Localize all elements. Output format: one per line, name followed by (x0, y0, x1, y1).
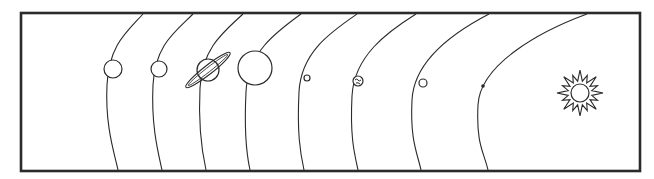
planet-mars-icon (304, 75, 310, 81)
orbit-path-jupiter (245, 14, 301, 170)
orbit-path-uranus (153, 14, 193, 170)
diagram-canvas (0, 0, 654, 179)
orbit-path-saturn (199, 14, 243, 170)
planet-uranus-icon (151, 61, 167, 77)
orbit-jupiter (238, 14, 301, 170)
planet-earth-icon (353, 76, 363, 86)
orbit-venus (412, 14, 489, 170)
sun-icon (557, 70, 603, 116)
planet-mercury-icon (481, 84, 485, 88)
orbit-earth (351, 14, 416, 170)
orbit-path-mars (298, 14, 357, 170)
orbit-path-earth (351, 14, 416, 170)
diagram-frame (21, 13, 640, 171)
planet-jupiter-icon (238, 51, 272, 85)
orbit-neptune (104, 14, 143, 170)
orbit-path-neptune (107, 14, 143, 170)
orbit-mars (298, 14, 357, 170)
solar-system-diagram: Solar system orbits diagram (0, 0, 654, 179)
planet-venus-icon (419, 79, 427, 87)
orbit-group (104, 14, 587, 170)
planet-neptune-icon (104, 60, 122, 78)
orbit-saturn (183, 14, 243, 170)
orbit-uranus (151, 14, 193, 170)
orbit-path-venus (412, 14, 489, 170)
